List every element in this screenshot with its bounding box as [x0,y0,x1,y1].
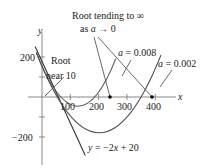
root-near-label-2: near 10 [46,70,76,81]
y-tick-200: 200 [20,52,35,63]
x-tick-400: 400 [146,101,161,112]
line-equation-label: y = −2x + 20 [87,142,139,153]
root-dot-390 [150,95,154,99]
x-tick-100: 100 [60,101,75,112]
series-label-a-0-008: a = 0.008 [118,47,156,58]
y-tick-neg-200: −200 [12,132,33,143]
y-axis-label: y [37,25,43,36]
root-infinity-label-2: as a → 0 [80,23,116,34]
chart: Root tending to ∞ as a → 0 Root near 10 … [0,0,210,168]
series-label-a-0-002: a = 0.002 [158,58,196,69]
x-tick-300: 300 [117,101,132,112]
root-dot-240 [108,95,112,99]
leader-lines [45,37,172,97]
root-near-label-1: Root [51,55,71,66]
x-tick-200: 200 [89,101,104,112]
root-infinity-label-1: Root tending to ∞ [72,10,144,21]
x-axis-label: x [177,91,183,102]
